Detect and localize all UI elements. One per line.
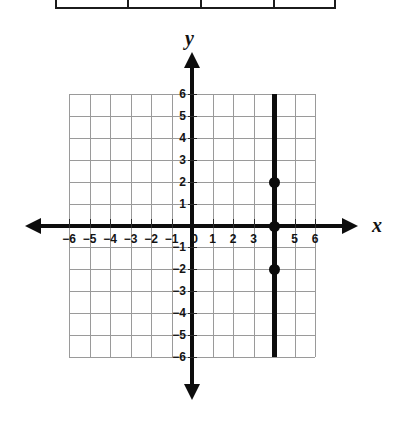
y-axis-tick (188, 204, 197, 205)
y-axis-tick (188, 138, 197, 139)
y-axis-tick-label: 3 (164, 154, 186, 166)
y-axis-tick (188, 94, 197, 95)
x-axis-tick (131, 219, 132, 228)
x-axis-tick-label: −2 (140, 233, 162, 245)
table-bottom-border (55, 7, 336, 9)
y-axis-tick (188, 116, 197, 117)
y-axis-tick (188, 291, 197, 292)
x-axis-tick (213, 219, 214, 228)
x-axis-right-arrow-icon (342, 218, 358, 234)
x-axis-tick-label: −3 (120, 233, 142, 245)
y-axis-down-arrow-icon (184, 384, 200, 400)
partial-table-remnant (55, 0, 336, 9)
x-axis-tick (110, 219, 111, 228)
y-axis-tick (188, 357, 197, 358)
y-axis-tick-label: −6 (164, 351, 186, 363)
y-axis-tick-label: 1 (164, 198, 186, 210)
x-axis-tick-label: −6 (58, 233, 80, 245)
y-axis-tick-label: 4 (164, 132, 186, 144)
x-axis-tick (315, 219, 316, 228)
y-axis-label: y (185, 28, 194, 48)
plotted-point (269, 177, 280, 188)
x-axis-tick-label: −4 (99, 233, 121, 245)
plotted-point (269, 221, 280, 232)
y-axis-tick-label: −3 (164, 285, 186, 297)
x-axis-tick-label: 5 (284, 233, 306, 245)
y-axis-tick (188, 160, 197, 161)
x-axis-label: x (372, 215, 382, 235)
x-axis-left-arrow-icon (25, 218, 41, 234)
x-axis-tick-label: 3 (243, 233, 265, 245)
y-axis-tick (188, 313, 197, 314)
y-axis-tick-label: −2 (164, 263, 186, 275)
y-axis-tick (188, 335, 197, 336)
y-axis-tick-label: −1 (164, 241, 186, 253)
x-axis-tick-label: −5 (79, 233, 101, 245)
x-axis-tick (69, 219, 70, 228)
y-axis-tick (188, 182, 197, 183)
x-axis-tick (295, 219, 296, 228)
y-axis-tick-label: 2 (164, 176, 186, 188)
coordinate-plane-graph: y x −6−5−4−3−2−1012356654321−1−2−3−4−5−6 (0, 18, 406, 418)
x-axis-tick (233, 219, 234, 228)
x-axis-tick (254, 219, 255, 228)
x-axis-tick (151, 219, 152, 228)
y-axis-tick (188, 247, 197, 248)
y-axis-tick-label: 5 (164, 110, 186, 122)
x-axis-tick-label: 2 (222, 233, 244, 245)
y-axis-tick-label: −4 (164, 307, 186, 319)
y-axis-tick-label: 6 (164, 88, 186, 100)
y-axis-tick-label: −5 (164, 329, 186, 341)
x-axis-tick (90, 219, 91, 228)
y-axis-up-arrow-icon (184, 52, 200, 68)
y-axis-tick (188, 269, 197, 270)
x-axis-tick-label: 6 (304, 233, 326, 245)
y-axis-line (190, 66, 194, 386)
x-axis-tick-label: 1 (202, 233, 224, 245)
x-axis-tick (172, 219, 173, 228)
